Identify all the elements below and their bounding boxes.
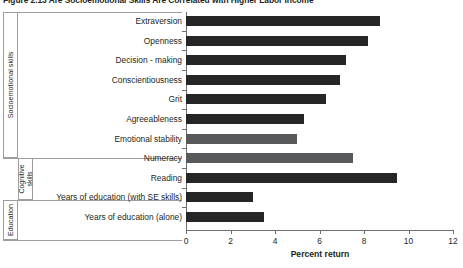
x-axis-tick (275, 230, 276, 234)
x-axis-tick-label: 6 (317, 236, 322, 246)
bar (186, 212, 264, 222)
x-axis-title: Percent return (186, 249, 454, 259)
x-axis-tick (364, 230, 365, 234)
category-label: Decision - making (115, 55, 182, 65)
y-axis-tick (182, 129, 186, 130)
y-axis-tick (182, 188, 186, 189)
group-label-socioemotional: Socioemotional skills (3, 12, 18, 158)
group-label-cognitive-text: Cognitive skills (18, 157, 33, 201)
bar-chart: Socioemotional skills Cognitive skills E… (0, 10, 463, 268)
bar (186, 16, 380, 26)
bar (186, 153, 353, 163)
bar (186, 55, 346, 65)
group-label-socioemotional-text: Socioemotional skills (7, 52, 15, 119)
y-axis-tick (182, 109, 186, 110)
x-axis-tick-label: 4 (273, 236, 278, 246)
y-axis-tick (182, 168, 186, 169)
category-label: Emotional stability (115, 134, 183, 144)
group-label-education: Education (3, 200, 18, 240)
group-label-cognitive: Cognitive skills (18, 158, 33, 200)
y-axis-tick (182, 148, 186, 149)
bar (186, 94, 326, 104)
category-label: Agreeableness (126, 114, 182, 124)
category-label: Grit (169, 94, 183, 104)
group-label-education-text: Education (7, 204, 15, 236)
x-axis-tick (186, 230, 187, 234)
group-separator (3, 240, 182, 241)
y-axis-tick (182, 207, 186, 208)
category-label: Years of education (with SE skills) (56, 192, 182, 202)
category-label: Reading (151, 173, 182, 183)
x-axis-tick-label: 12 (448, 236, 457, 246)
x-axis-tick-label: 8 (362, 236, 367, 246)
bar (186, 36, 368, 46)
category-label-column: ExtraversionOpennessDecision - makingCon… (34, 10, 182, 230)
bar (186, 134, 297, 144)
x-axis-tick (453, 230, 454, 234)
y-axis-tick (182, 90, 186, 91)
category-label: Numeracy (144, 153, 182, 163)
x-axis-tick (231, 230, 232, 234)
y-axis-tick (182, 70, 186, 71)
x-axis-tick (409, 230, 410, 234)
y-axis-tick (182, 31, 186, 32)
x-axis-tick (320, 230, 321, 234)
y-axis-tick (182, 50, 186, 51)
figure-title: Figure 2.13 Are Socioemotional Skills Ar… (3, 0, 314, 5)
category-label: Conscientiousness (112, 75, 182, 85)
category-label: Openness (144, 36, 182, 46)
x-axis-tick-label: 2 (228, 236, 233, 246)
category-label: Years of education (alone) (85, 212, 182, 222)
plot-area (186, 12, 453, 228)
category-label: Extraversion (135, 16, 182, 26)
bar (186, 75, 340, 85)
x-axis-tick-label: 0 (184, 236, 189, 246)
bar (186, 192, 253, 202)
bar (186, 114, 304, 124)
bar (186, 173, 397, 183)
x-axis-tick-label: 10 (404, 236, 413, 246)
